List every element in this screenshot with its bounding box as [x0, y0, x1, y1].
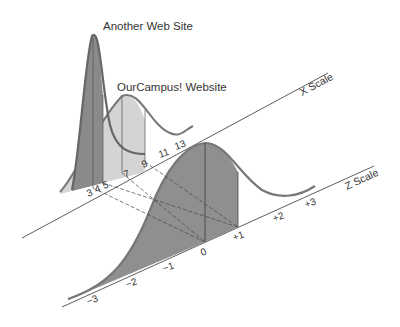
- x-tick-11: 11: [157, 146, 171, 160]
- z-scale-label: Z Scale: [343, 166, 380, 192]
- z-tick-plus1: +1: [231, 228, 246, 242]
- x-tick-3: 3: [85, 186, 94, 198]
- ourcampus-label: OurCampus! Website: [117, 81, 227, 93]
- z-tick-0: 0: [199, 245, 208, 257]
- z-tick-neg3: −3: [85, 292, 100, 306]
- z-tick-plus3: +3: [303, 195, 318, 209]
- another-site-label: Another Web Site: [103, 20, 193, 32]
- x-tick-4: 4: [93, 182, 102, 194]
- normal-distribution-diagram: 3 4 5 7 9 11 13 −3 −2 −1 0 +1 +2 +3 Anot…: [0, 0, 400, 327]
- x-scale-label: X Scale: [297, 70, 335, 98]
